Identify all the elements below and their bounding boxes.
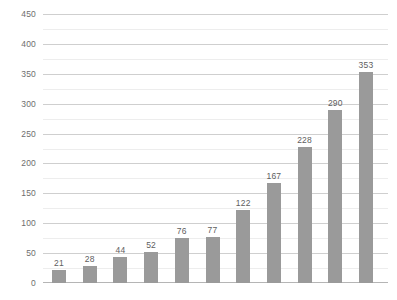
bar — [144, 252, 158, 283]
y-axis-tick-label: 400 — [0, 40, 36, 49]
y-axis-tick-label: 300 — [0, 100, 36, 109]
bar-value-label: 167 — [254, 172, 294, 181]
y-axis-tick-label: 350 — [0, 70, 36, 79]
y-axis-tick-label: 450 — [0, 10, 36, 19]
gridline-minor — [43, 59, 388, 60]
bar — [328, 110, 342, 283]
bar — [359, 72, 373, 283]
bar-value-label: 77 — [193, 226, 233, 235]
y-axis-tick-label: 50 — [0, 249, 36, 258]
plot-area — [43, 14, 388, 283]
bar — [113, 257, 127, 283]
gridline-minor — [43, 89, 388, 90]
bar-value-label: 28 — [70, 255, 110, 264]
bar-value-label: 290 — [315, 99, 355, 108]
y-axis-tick-label: 150 — [0, 189, 36, 198]
bar — [206, 237, 220, 283]
gridline-major — [43, 14, 388, 15]
y-axis-tick-label: 100 — [0, 219, 36, 228]
bar-chart: 050100150200250300350400450 212844527677… — [0, 0, 397, 300]
bar-value-label: 228 — [285, 136, 325, 145]
bar-value-label: 122 — [223, 199, 263, 208]
y-axis-tick-label: 200 — [0, 159, 36, 168]
bar-value-label: 353 — [346, 61, 386, 70]
gridline-major — [43, 74, 388, 75]
bar — [175, 238, 189, 283]
bar — [52, 270, 66, 283]
y-axis-tick-label: 250 — [0, 130, 36, 139]
bar — [83, 266, 97, 283]
bar — [267, 183, 281, 283]
y-axis-tick-label: 0 — [0, 279, 36, 288]
bar-value-label: 52 — [131, 241, 171, 250]
gridline-minor — [43, 29, 388, 30]
bar — [236, 210, 250, 283]
bar — [298, 147, 312, 283]
gridline-major — [43, 44, 388, 45]
